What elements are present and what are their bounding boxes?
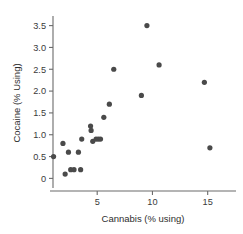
y-tick-label: 1.5 (33, 108, 46, 118)
data-point (111, 67, 116, 72)
data-point (144, 23, 149, 28)
x-tick-label: 5 (95, 197, 100, 207)
data-point (60, 141, 65, 146)
x-tick-label: 10 (147, 197, 157, 207)
data-point (156, 62, 161, 67)
data-point (88, 123, 93, 128)
x-axis: 51015 (50, 191, 236, 207)
data-points (51, 23, 213, 177)
data-point (79, 137, 84, 142)
data-point (139, 93, 144, 98)
y-tick-label: 2.0 (33, 86, 46, 96)
data-point (98, 137, 103, 142)
x-axis-title: Cannabis (% using) (102, 213, 185, 224)
data-point (207, 145, 212, 150)
data-point (51, 154, 56, 159)
data-point (66, 150, 71, 155)
y-axis-tick-labels: 00.51.01.52.02.53.03.5 (33, 21, 46, 184)
x-tick-label: 15 (203, 197, 213, 207)
y-axis-title: Cocaine (% Using) (11, 63, 22, 142)
data-point (202, 80, 207, 85)
y-tick-label: 1.0 (33, 130, 46, 140)
data-point (76, 150, 81, 155)
y-tick-label: 3.0 (33, 43, 46, 53)
y-tick-label: 2.5 (33, 65, 46, 75)
data-point (101, 115, 106, 120)
y-axis: 00.51.01.52.02.53.03.5 (33, 16, 53, 188)
x-axis-tick-labels: 51015 (95, 197, 213, 207)
x-axis-ticks (97, 191, 207, 195)
y-tick-label: 0 (41, 174, 46, 184)
data-point (89, 128, 94, 133)
data-point (78, 167, 83, 172)
y-tick-label: 0.5 (33, 152, 46, 162)
data-point (71, 167, 76, 172)
data-point (107, 102, 112, 107)
y-tick-label: 3.5 (33, 21, 46, 31)
scatter-plot-figure: 00.51.01.52.02.53.03.5 51015 Cannabis (%… (0, 0, 243, 234)
chart-canvas: 00.51.01.52.02.53.03.5 51015 Cannabis (%… (0, 0, 243, 234)
data-point (63, 171, 68, 176)
